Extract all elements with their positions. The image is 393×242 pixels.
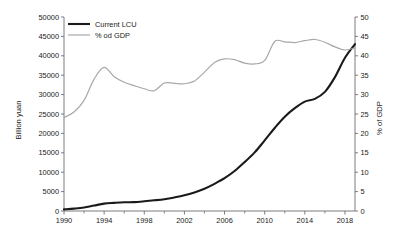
- right-axis-tick-label: 25: [361, 110, 369, 119]
- right-axis-tick-label: 45: [361, 32, 369, 41]
- x-axis-tick-label: 2006: [216, 216, 232, 225]
- left-axis-tick-label: 15000: [38, 148, 59, 157]
- dual-axis-line-chart: 0500010000150002000025000300003500040000…: [0, 0, 393, 242]
- right-axis-tick-label: 35: [361, 71, 369, 80]
- left-axis-tick-label: 25000: [38, 110, 59, 119]
- x-axis-tick-label: 1990: [56, 216, 72, 225]
- left-axis-tick-label: 35000: [38, 71, 59, 80]
- left-axis-tick-label: 0: [55, 207, 59, 216]
- x-axis-tick-label: 2002: [176, 216, 192, 225]
- legend-label: Current LCU: [95, 20, 136, 29]
- right-axis-title: % of GDP: [375, 101, 384, 135]
- left-axis-title: Billion yuan: [14, 101, 23, 140]
- left-axis-tick-label: 45000: [38, 32, 59, 41]
- right-axis-tick-label: 5: [361, 187, 365, 196]
- left-axis-tick-label: 30000: [38, 90, 59, 99]
- left-axis-tick-label: 20000: [38, 129, 59, 138]
- right-axis-tick-label: 20: [361, 129, 369, 138]
- right-axis-tick-label: 15: [361, 148, 369, 157]
- x-axis-tick-label: 2010: [256, 216, 272, 225]
- left-axis-tick-label: 5000: [43, 187, 59, 196]
- left-axis-tick-label: 10000: [38, 168, 59, 177]
- x-axis-tick-label: 2018: [337, 216, 353, 225]
- legend-label: % od GDP: [95, 31, 130, 40]
- x-axis-tick-label: 1998: [136, 216, 152, 225]
- chart-container: 0500010000150002000025000300003500040000…: [0, 0, 393, 242]
- left-axis-tick-label: 40000: [38, 51, 59, 60]
- right-axis-tick-label: 30: [361, 90, 369, 99]
- right-axis-tick-label: 0: [361, 207, 365, 216]
- x-axis-tick-label: 2014: [297, 216, 313, 225]
- left-axis-tick-label: 50000: [38, 13, 59, 22]
- right-axis-tick-label: 40: [361, 51, 369, 60]
- right-axis-tick-label: 10: [361, 168, 369, 177]
- right-axis-tick-label: 50: [361, 13, 369, 22]
- x-axis-tick-label: 1994: [96, 216, 112, 225]
